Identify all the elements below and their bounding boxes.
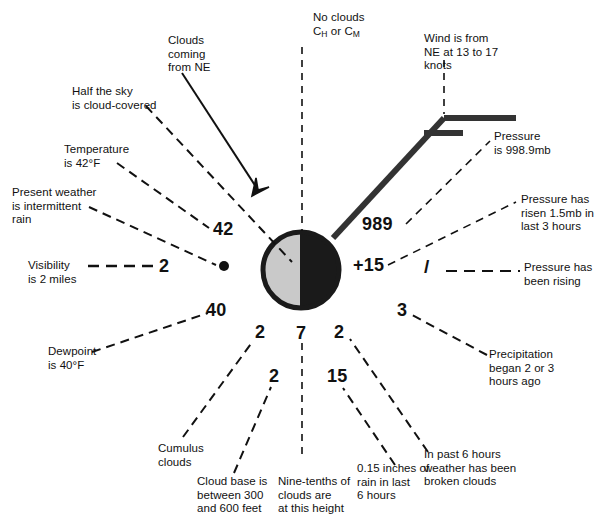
callout-no-clouds: No cloudsCH or CM (313, 11, 365, 39)
leader-pressure (406, 141, 490, 224)
callout-no-clouds-line2: CH or CM (313, 25, 360, 37)
value-mid-cloud: 2 (334, 322, 344, 343)
callout-wind: Wind is from NE at 13 to 17 knots (424, 32, 498, 73)
value-pressure-tendency: / (424, 256, 430, 278)
present-weather-dot-symbol (219, 261, 229, 271)
leader-clouds-from-ne (182, 73, 269, 196)
callout-half-sky-covered: Half the sky is cloud-covered (72, 85, 157, 112)
callout-pressure-risen: Pressure has risen 1.5mb in last 3 hours (521, 193, 594, 234)
value-dewpoint: 40 (206, 300, 227, 321)
callout-nine-tenths: Nine-tenths of clouds are at this height (278, 475, 350, 516)
callout-pressure: Pressure is 998.9mb (494, 130, 551, 157)
leader-past-weather (350, 339, 428, 452)
callout-clouds-from-ne: Clouds coming from NE (168, 34, 211, 75)
callout-temperature: Temperature is 42°F (64, 143, 129, 170)
wind-barb (333, 118, 516, 238)
callout-no-clouds-line1: No clouds (313, 11, 365, 23)
leader-pressure-risen (388, 202, 516, 265)
value-visibility: 2 (159, 256, 169, 277)
callout-cloud-base: Cloud base is between 300 and 600 feet (197, 475, 267, 516)
leader-rain-amount (343, 388, 395, 465)
value-precip-amount: 15 (327, 366, 348, 387)
leader-dewpoint (92, 313, 208, 352)
callout-dewpoint: Dewpoint is 40°F (48, 345, 96, 372)
value-cloud-base: 2 (269, 366, 279, 387)
value-pressure: 989 (362, 214, 393, 235)
callout-precip-began: Precipitation began 2 or 3 hours ago (489, 348, 554, 389)
leader-cloud-base (234, 387, 271, 473)
callout-pressure-rising: Pressure has been rising (524, 261, 592, 288)
value-low-cloud-type: 2 (255, 322, 265, 343)
value-pressure-change: +15 (353, 255, 384, 276)
leader-temperature (117, 163, 209, 228)
value-precip-began: 3 (397, 300, 407, 321)
callout-past-weather: In past 6 hours weather has been broken … (424, 448, 516, 489)
callout-rain-amount: 0.15 inches of rain in last 6 hours (357, 462, 429, 503)
callout-visibility: Visibility is 2 miles (28, 259, 76, 286)
leader-precip-began (412, 315, 487, 355)
value-sky-height: 7 (296, 323, 306, 344)
leader-cumulus (183, 341, 253, 437)
value-temperature: 42 (213, 219, 234, 240)
callout-present-weather: Present weather is intermittent rain (12, 186, 97, 227)
weather-station-model-diagram: No cloudsCH or CM Clouds coming from NE … (0, 0, 605, 530)
callout-cumulus: Cumulus clouds (158, 442, 204, 469)
leader-present-weather (89, 207, 216, 265)
